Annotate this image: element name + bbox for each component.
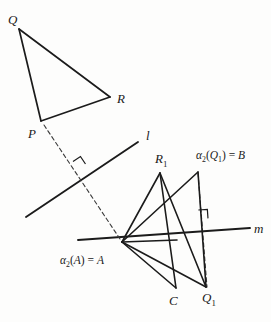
arg-A: A — [74, 254, 81, 266]
label-line-m: m — [254, 222, 263, 235]
dashed-perpendicular-P-to-A — [44, 125, 122, 242]
right-angle-mark-on-line-m — [198, 209, 208, 218]
label-point-P: P — [28, 127, 36, 140]
segment-R1-C — [160, 173, 176, 288]
label-alpha2-A-equals-A: α2(A) = A — [60, 255, 104, 269]
mirror-line-m — [78, 228, 250, 240]
equals-A: = — [85, 254, 97, 266]
lower-triangle-network — [122, 172, 206, 288]
label-point-R1: R1 — [155, 152, 167, 168]
label-R1-base: R — [155, 151, 163, 166]
equals-B: = — [226, 149, 238, 161]
label-R1-subscript: 1 — [163, 159, 167, 169]
triangle-PQR — [19, 29, 110, 121]
arg-Q-B: Q — [210, 149, 218, 161]
mirror-line-l — [26, 142, 138, 217]
label-point-Q: Q — [8, 13, 17, 26]
label-line-l: l — [146, 129, 150, 142]
label-Q1-base: Q — [202, 290, 211, 305]
segment-A-Q1 — [122, 242, 206, 287]
label-Q1-subscript: 1 — [211, 298, 215, 308]
result-A: A — [97, 254, 104, 266]
segment-A-C — [122, 242, 176, 288]
right-angle-mark-on-line-l — [73, 157, 85, 164]
segment-A-R1 — [122, 173, 160, 242]
result-B: B — [238, 149, 245, 161]
label-point-C: C — [169, 294, 178, 307]
label-alpha2-Q1-equals-B: α2(Q1) = B — [196, 150, 245, 164]
label-point-R: R — [117, 92, 125, 105]
segment-P-R — [41, 97, 110, 121]
label-point-Q1: Q1 — [202, 291, 216, 307]
